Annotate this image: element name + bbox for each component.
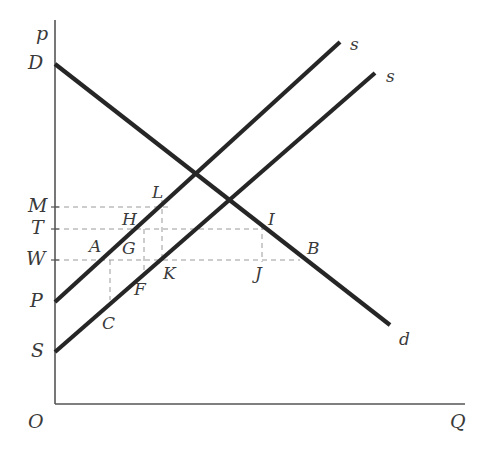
curves-group: [55, 42, 390, 352]
y-tick-label-P: P: [30, 291, 43, 310]
axis-label-origin: O: [28, 412, 44, 431]
point-label-K: K: [163, 265, 176, 282]
axis-label-quantity: Q: [450, 412, 466, 431]
y-tick-label-D: D: [28, 53, 43, 72]
point-label-L: L: [152, 184, 163, 201]
y-tick-label-S: S: [31, 341, 44, 360]
point-label-I: I: [268, 211, 275, 228]
curve-label-supply-original: s: [386, 68, 395, 85]
point-label-B: B: [307, 240, 320, 257]
point-label-H: H: [122, 211, 137, 228]
point-label-C: C: [102, 315, 115, 332]
diagram-canvas: [0, 0, 489, 461]
curve-label-demand: d: [399, 331, 410, 348]
axis-label-price: p: [36, 24, 48, 43]
point-label-G: G: [122, 240, 136, 257]
curve-supply-shifted: [55, 42, 340, 302]
y-tick-label-T: T: [31, 218, 44, 237]
y-tick-label-W: W: [26, 249, 46, 268]
supply-demand-figure: pQODMTWPSdssLHIAGBKJFC: [0, 0, 489, 461]
curve-supply-original: [55, 73, 375, 352]
point-label-F: F: [134, 281, 146, 298]
curve-label-supply-shifted: s: [350, 36, 359, 53]
point-label-J: J: [255, 265, 262, 282]
point-label-A: A: [89, 238, 101, 255]
y-tick-label-M: M: [28, 196, 47, 215]
